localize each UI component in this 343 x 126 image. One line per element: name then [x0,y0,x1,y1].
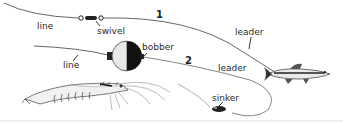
bobber-icon [107,41,144,71]
rig1-line [4,3,78,18]
bobber-label: bobber [142,42,174,52]
rig2-line-label: line [63,60,79,70]
swivel-icon [79,16,103,20]
rig2-leader-label: leader [218,63,247,73]
rig1-line-label: line [37,21,53,31]
rig1-leader-label: leader [235,27,264,37]
sinker-icon [212,106,226,112]
rig2-leader [144,57,271,116]
fishing-rig-diagram [0,0,343,126]
rig2-number: 2 [185,55,192,66]
shrimp-icon [22,82,170,110]
rig2-line [34,46,108,55]
rig1-number: 1 [156,9,163,20]
minnow-icon [264,64,330,84]
swivel-label: swivel [97,26,125,36]
sinker-label: sinker [212,93,239,103]
rig2-line-to-sinker [178,84,210,107]
leader1-pointer [249,37,251,49]
